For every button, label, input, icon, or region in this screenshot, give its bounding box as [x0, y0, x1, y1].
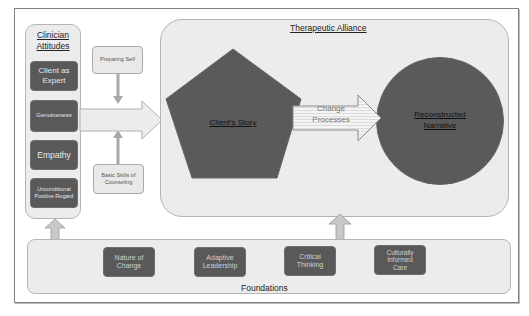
- change-processes-label: Change Processes: [300, 104, 362, 126]
- foundation-adaptive-leadership: Adaptive Leadership: [194, 247, 246, 277]
- attitude-empathy: Empathy: [30, 140, 78, 170]
- circle-label-line-2: Narrative: [376, 121, 504, 132]
- clinician-attitudes-title: Clinician Attitudes: [25, 30, 81, 51]
- reconstructed-narrative-label: Reconstructed Narrative: [376, 110, 504, 132]
- preparing-self-box: Preparing Self: [92, 46, 143, 74]
- attitude-client-as-expert: Client as Expert: [30, 61, 78, 91]
- pentagon-shape: [164, 48, 304, 180]
- foundation-line-1: Critical: [297, 253, 323, 261]
- foundation-line-1: Adaptive: [203, 254, 238, 262]
- attitude-genuineness: Genuineness: [30, 100, 78, 132]
- foundation-culturally-informed-care: Culturally Informed Care: [374, 245, 426, 275]
- attitude-label: Client as Expert: [31, 66, 77, 85]
- foundation-critical-thinking: Critical Thinking: [284, 246, 336, 276]
- clients-story-label: Client's Story: [190, 118, 276, 127]
- basic-skills-label: Basic Skills of Counseling: [97, 172, 140, 186]
- preparing-self-label: Preparing Self: [100, 56, 135, 63]
- foundation-line-1: Culturally: [386, 249, 413, 256]
- attitude-label: Empathy: [37, 150, 71, 160]
- arrow-up-icon: [329, 214, 351, 240]
- foundation-nature-of-change: Nature of Change: [103, 247, 155, 277]
- foundation-line-2: Leadership: [203, 262, 238, 270]
- foundation-line-2: Thinking: [297, 261, 323, 269]
- foundation-line-3: Care: [386, 264, 413, 271]
- attitude-label: Genuineness: [36, 112, 71, 119]
- arrow-label-line-1: Change: [300, 104, 362, 115]
- arrow-up-icon: [45, 219, 65, 241]
- circle-label-line-1: Reconstructed: [376, 110, 504, 121]
- title-line-1: Clinician: [25, 30, 81, 41]
- foundation-line-2: Change: [115, 262, 144, 270]
- foundation-line-2: Informed: [386, 256, 413, 263]
- basic-skills-box: Basic Skills of Counseling: [93, 164, 144, 194]
- foundation-line-1: Nature of: [115, 254, 144, 262]
- attitude-label: Unconditional Positive Regard: [34, 186, 74, 199]
- arrow-label-line-2: Processes: [300, 115, 362, 126]
- therapeutic-alliance-title: Therapeutic Alliance: [290, 23, 367, 33]
- arrow-right-icon: [80, 101, 164, 139]
- foundations-title: Foundations: [241, 283, 288, 293]
- attitude-unconditional-positive-regard: Unconditional Positive Regard: [30, 178, 78, 208]
- title-line-2: Attitudes: [25, 41, 81, 52]
